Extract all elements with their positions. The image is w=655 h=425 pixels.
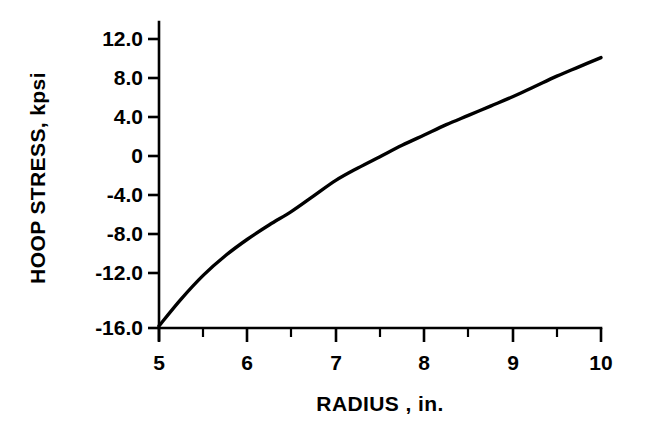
y-tick-label: 4.0 (114, 105, 143, 128)
y-tick-label: -16.0 (95, 316, 143, 339)
x-tick-label: 5 (153, 351, 165, 374)
hoop-stress-line-chart: HOOP STRESS, kpsi 12.0 8.0 4.0 0 -4.0 -8… (0, 0, 655, 425)
x-tick-label: 8 (418, 351, 430, 374)
y-tick-label: 12.0 (102, 27, 143, 50)
y-tick-label: 0 (131, 144, 143, 167)
x-tick-label: 7 (330, 351, 342, 374)
y-axis-title: HOOP STRESS, kpsi (26, 72, 49, 284)
y-tick-label: 8.0 (114, 66, 143, 89)
x-tick-label: 9 (507, 351, 519, 374)
x-tick-label: 6 (241, 351, 253, 374)
y-tick-label: -4.0 (107, 183, 143, 206)
y-tick-label: -12.0 (95, 261, 143, 284)
x-axis-title: RADIUS , in. (316, 392, 443, 415)
x-tick-label: 10 (589, 351, 612, 374)
y-tick-label: -8.0 (107, 222, 143, 245)
chart-figure: HOOP STRESS, kpsi 12.0 8.0 4.0 0 -4.0 -8… (0, 0, 655, 425)
hoop-stress-curve (159, 58, 601, 326)
